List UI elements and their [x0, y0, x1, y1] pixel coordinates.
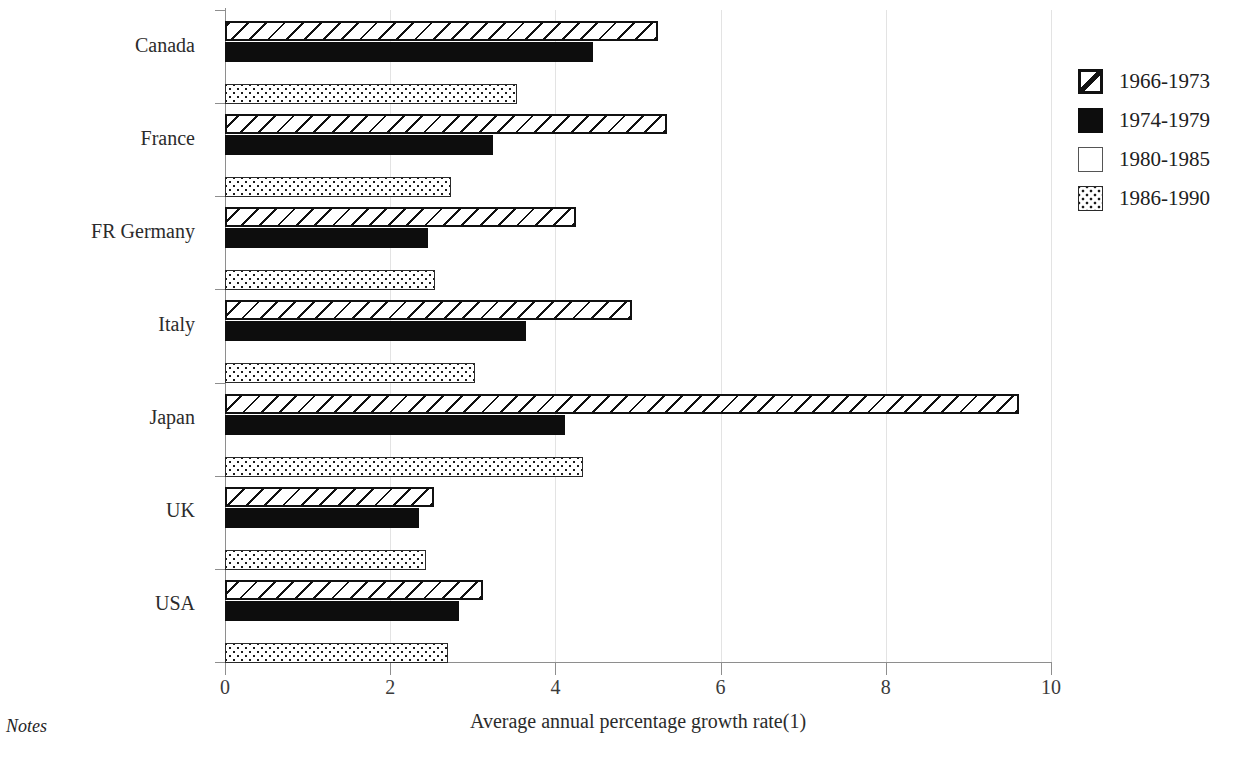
legend-label: 1980-1985 — [1119, 147, 1210, 172]
bar — [225, 415, 565, 435]
bar — [225, 321, 526, 341]
legend-swatch-icon — [1078, 108, 1103, 133]
bar — [225, 363, 475, 383]
bar-group — [225, 289, 1051, 382]
x-tick — [225, 663, 226, 675]
bar — [225, 135, 493, 155]
x-tick-label: 2 — [385, 676, 395, 699]
bar — [225, 84, 517, 104]
bar-group — [225, 103, 1051, 196]
bar — [225, 228, 428, 248]
bar — [225, 42, 593, 62]
legend-item: 1974-1979 — [1078, 105, 1210, 135]
category-label: UK — [166, 499, 195, 522]
bar-group — [225, 196, 1051, 289]
legend-item: 1986-1990 — [1078, 183, 1210, 213]
legend-label: 1986-1990 — [1119, 186, 1210, 211]
x-axis-title: Average annual percentage growth rate(1) — [470, 710, 806, 733]
bar — [225, 457, 583, 477]
bar-group — [225, 476, 1051, 569]
bar — [225, 207, 576, 227]
gridline — [1051, 10, 1052, 662]
legend-swatch-icon — [1078, 186, 1103, 211]
legend-item: 1980-1985 — [1078, 144, 1210, 174]
x-tick — [721, 663, 722, 675]
bar — [225, 643, 448, 663]
bar-group — [225, 569, 1051, 662]
bar — [225, 270, 435, 290]
x-tick — [1051, 663, 1052, 675]
legend-swatch-icon — [1078, 69, 1103, 94]
chart-figure: 0246810 CanadaFranceFR GermanyItalyJapan… — [0, 0, 1236, 772]
category-label: FR Germany — [91, 219, 195, 242]
x-tick-label: 10 — [1041, 676, 1061, 699]
legend-item: 1966-1973 — [1078, 66, 1210, 96]
bar-group — [225, 10, 1051, 103]
legend-swatch-icon — [1078, 147, 1103, 172]
category-label: France — [141, 126, 195, 149]
bar — [225, 21, 658, 41]
bar — [225, 487, 434, 507]
category-label: Canada — [135, 33, 195, 56]
x-tick-label: 8 — [881, 676, 891, 699]
x-tick — [886, 663, 887, 675]
bar — [225, 114, 667, 134]
plot-area — [225, 10, 1051, 662]
bar — [225, 601, 459, 621]
x-tick-label: 0 — [220, 676, 230, 699]
bar — [225, 177, 451, 197]
category-label: Italy — [158, 313, 195, 336]
notes-label: Notes — [6, 716, 47, 737]
bar — [225, 508, 419, 528]
bar — [225, 394, 1019, 414]
category-label: USA — [155, 592, 195, 615]
legend-label: 1974-1979 — [1119, 108, 1210, 133]
bar — [225, 550, 426, 570]
bar — [225, 300, 632, 320]
bar-group — [225, 383, 1051, 476]
legend-label: 1966-1973 — [1119, 69, 1210, 94]
x-tick — [390, 663, 391, 675]
x-tick-label: 6 — [716, 676, 726, 699]
x-tick-label: 4 — [550, 676, 560, 699]
x-tick — [555, 663, 556, 675]
category-label: Japan — [149, 406, 195, 429]
chart-legend: 1966-19731974-19791980-19851986-1990 — [1078, 66, 1210, 222]
bar — [225, 580, 483, 600]
